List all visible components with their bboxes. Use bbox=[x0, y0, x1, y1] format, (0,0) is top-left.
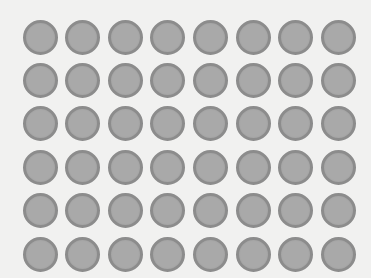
circle-dot bbox=[150, 193, 185, 228]
circle-dot bbox=[150, 237, 185, 272]
circle-dot bbox=[236, 193, 271, 228]
circle-dot bbox=[193, 193, 228, 228]
circle-dot bbox=[321, 20, 356, 55]
circle-dot bbox=[236, 237, 271, 272]
circle-dot bbox=[65, 150, 100, 185]
circle-dot bbox=[278, 63, 313, 98]
circle-dot bbox=[65, 63, 100, 98]
circle-dot bbox=[193, 63, 228, 98]
circle-dot bbox=[150, 150, 185, 185]
circle-dot bbox=[108, 237, 143, 272]
circle-dot bbox=[65, 20, 100, 55]
circle-dot bbox=[278, 106, 313, 141]
circle-dot bbox=[108, 150, 143, 185]
circle-dot bbox=[321, 63, 356, 98]
circle-dot bbox=[236, 106, 271, 141]
circle-dot bbox=[193, 150, 228, 185]
circle-dot bbox=[108, 20, 143, 55]
circle-dot bbox=[65, 193, 100, 228]
circle-dot bbox=[193, 20, 228, 55]
circle-dot bbox=[150, 20, 185, 55]
circle-dot bbox=[321, 106, 356, 141]
circle-dot bbox=[23, 150, 58, 185]
circle-dot bbox=[278, 150, 313, 185]
circle-dot bbox=[193, 237, 228, 272]
circle-dot bbox=[23, 20, 58, 55]
circle-dot bbox=[108, 63, 143, 98]
circle-dot bbox=[23, 63, 58, 98]
circle-dot bbox=[321, 193, 356, 228]
circle-dot bbox=[108, 106, 143, 141]
circle-dot bbox=[236, 20, 271, 55]
circle-dot bbox=[278, 237, 313, 272]
circle-dot bbox=[23, 237, 58, 272]
circle-dot bbox=[278, 193, 313, 228]
circle-dot bbox=[65, 237, 100, 272]
circle-dot bbox=[150, 63, 185, 98]
circle-dot bbox=[108, 193, 143, 228]
circle-dot bbox=[321, 237, 356, 272]
circle-dot bbox=[236, 63, 271, 98]
circle-dot bbox=[321, 150, 356, 185]
circle-dot bbox=[236, 150, 271, 185]
circle-dot bbox=[150, 106, 185, 141]
circle-dot bbox=[193, 106, 228, 141]
circle-dot bbox=[23, 193, 58, 228]
circle-dot bbox=[278, 20, 313, 55]
circle-dot bbox=[65, 106, 100, 141]
circle-dot bbox=[23, 106, 58, 141]
dot-grid bbox=[0, 0, 371, 278]
